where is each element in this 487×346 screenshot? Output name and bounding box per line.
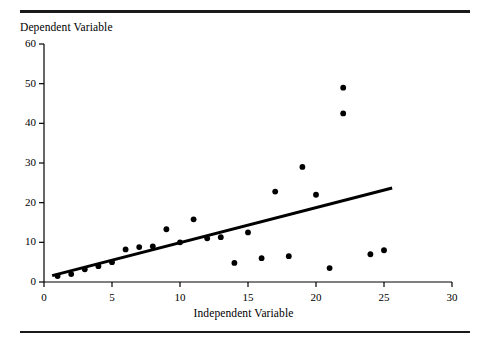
x-axis [44, 282, 452, 287]
scatter-point [340, 111, 346, 117]
x-tick-label: 10 [165, 291, 195, 303]
x-tick-label: 20 [301, 291, 331, 303]
regression-trend-line [52, 188, 392, 276]
scatter-point [68, 271, 74, 277]
y-tick-label: 60 [12, 37, 36, 49]
x-axis-ticks [44, 282, 452, 287]
scatter-point [218, 234, 224, 240]
scatter-point [150, 243, 156, 249]
y-axis [39, 44, 44, 282]
scatter-point [136, 244, 142, 250]
scatter-point [82, 266, 88, 272]
scatter-point [313, 192, 319, 198]
scatter-point [245, 230, 251, 236]
scatter-point [191, 216, 197, 222]
x-tick-label: 0 [29, 291, 59, 303]
scatter-point [286, 253, 292, 259]
x-tick-label: 5 [97, 291, 127, 303]
y-tick-label: 10 [12, 235, 36, 247]
scatter-point [381, 247, 387, 253]
scatter-point [232, 260, 238, 266]
y-tick-label: 0 [12, 275, 36, 287]
scatter-point [204, 235, 210, 241]
y-tick-label: 50 [12, 77, 36, 89]
scatter-point [164, 226, 170, 232]
scatter-points [55, 85, 387, 279]
scatter-point [123, 247, 129, 253]
y-axis-ticks [39, 44, 44, 282]
scatter-point [272, 189, 278, 195]
scatter-point [109, 259, 115, 265]
y-tick-label: 20 [12, 196, 36, 208]
y-tick-label: 30 [12, 156, 36, 168]
y-tick-label: 40 [12, 116, 36, 128]
scatter-point [96, 263, 102, 269]
scatter-point [177, 239, 183, 245]
x-tick-label: 15 [233, 291, 263, 303]
x-tick-label: 30 [437, 291, 467, 303]
scatter-point [259, 255, 265, 261]
figure-container: Dependent Variable Independent Variable … [0, 0, 487, 346]
trend-line-segment [52, 188, 392, 276]
scatter-point [340, 85, 346, 91]
scatter-point [55, 273, 61, 279]
x-tick-label: 25 [369, 291, 399, 303]
scatter-point [368, 251, 374, 257]
scatter-point [327, 265, 333, 271]
scatter-point [300, 164, 306, 170]
